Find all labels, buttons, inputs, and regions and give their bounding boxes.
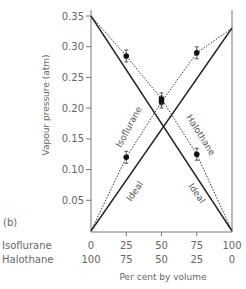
x-ticks: 01002575505075251000 (81, 232, 241, 265)
x-tick-label: 0 (88, 240, 94, 251)
data-point (194, 151, 200, 157)
isoflurane-ideal-label: Ideal (124, 179, 145, 203)
x-row-label-halothane: Halothane (2, 254, 53, 265)
data-point (194, 50, 200, 56)
halothane-curve-label: Halothane (184, 113, 217, 158)
data-point (123, 53, 129, 59)
panel-label: (b) (3, 217, 17, 228)
x-axis-title: Per cent by volume (119, 272, 206, 282)
x-tick-label: 100 (81, 254, 100, 265)
x-tick-label: 0 (229, 254, 235, 265)
isoflurane-ideal-line (91, 28, 232, 231)
y-tick-label: 0.35 (62, 11, 84, 22)
y-tick-label: 0.15 (62, 133, 84, 144)
vapour-pressure-chart: 0.050.100.150.200.250.300.35 01002575505… (0, 0, 246, 289)
y-tick-label: 0.30 (62, 41, 84, 52)
x-tick-label: 75 (190, 240, 203, 251)
x-tick-label: 75 (120, 254, 133, 265)
y-tick-label: 0.05 (62, 195, 84, 206)
x-tick-label: 50 (155, 254, 168, 265)
y-axis-title: Vapour pressure (atm) (41, 54, 51, 155)
y-tick-label: 0.10 (62, 164, 84, 175)
x-tick-label: 25 (120, 240, 133, 251)
x-tick-label: 100 (222, 240, 241, 251)
x-tick-label: 50 (155, 240, 168, 251)
y-tick-label: 0.25 (62, 72, 84, 83)
x-tick-label: 25 (190, 254, 203, 265)
halothane-ideal-line (91, 16, 232, 231)
y-tick-label: 0.20 (62, 103, 84, 114)
isoflurane-curve-label: Isoflurane (114, 104, 144, 149)
halothane-ideal-label: Ideal (186, 181, 207, 205)
data-point (123, 154, 129, 160)
x-row-label-isoflurane: Isoflurane (2, 240, 52, 251)
y-ticks: 0.050.100.150.200.250.300.35 (62, 11, 91, 206)
data-point (159, 96, 165, 102)
